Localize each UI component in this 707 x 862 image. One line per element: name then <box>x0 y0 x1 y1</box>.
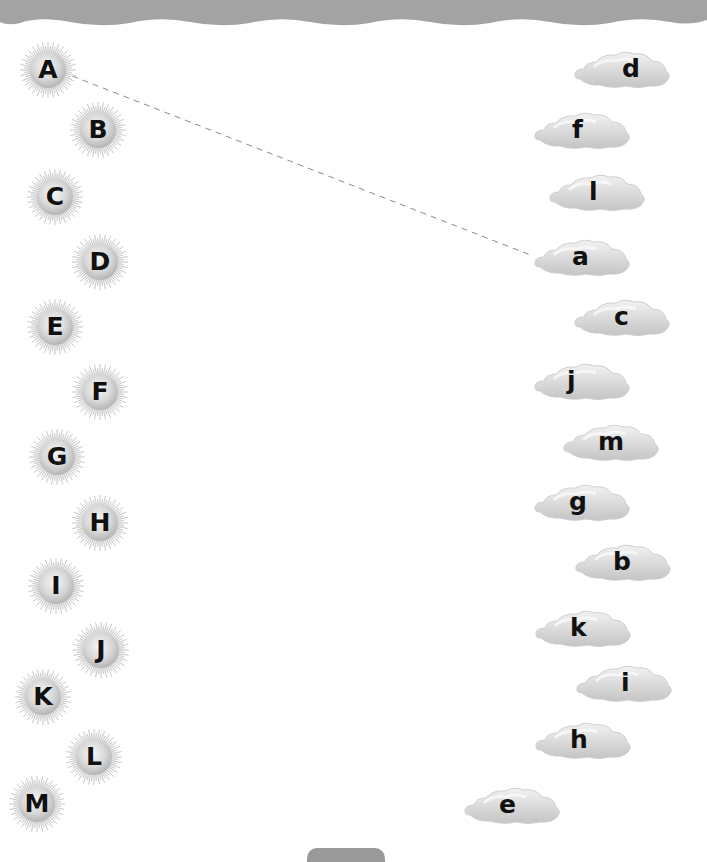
lowercase-letter: k <box>570 608 587 650</box>
uppercase-letter: L <box>66 729 122 785</box>
lowercase-m-cloud[interactable]: m <box>561 422 661 464</box>
uppercase-d-sun[interactable]: D <box>72 234 128 290</box>
lowercase-letter: f <box>572 110 583 152</box>
lowercase-c-cloud[interactable]: c <box>572 297 672 339</box>
uppercase-i-sun[interactable]: I <box>28 558 84 614</box>
uppercase-letter: G <box>29 429 85 485</box>
lowercase-h-cloud[interactable]: h <box>533 720 633 762</box>
uppercase-c-sun[interactable]: C <box>27 169 83 225</box>
uppercase-letter: A <box>20 42 76 98</box>
lowercase-letter: l <box>589 172 598 214</box>
lowercase-e-cloud[interactable]: e <box>462 785 562 827</box>
page-tab <box>307 848 385 862</box>
uppercase-letter: C <box>27 169 83 225</box>
uppercase-letter: F <box>72 364 128 420</box>
lowercase-letter: j <box>567 361 576 403</box>
cloud-icon <box>532 361 632 403</box>
uppercase-k-sun[interactable]: K <box>15 669 71 725</box>
uppercase-f-sun[interactable]: F <box>72 364 128 420</box>
lowercase-letter: e <box>499 785 516 827</box>
uppercase-letter: E <box>27 299 83 355</box>
uppercase-b-sun[interactable]: B <box>70 102 126 158</box>
lowercase-letter: c <box>614 297 629 339</box>
uppercase-letter: H <box>72 495 128 551</box>
uppercase-l-sun[interactable]: L <box>66 729 122 785</box>
lowercase-a-cloud[interactable]: a <box>532 237 632 279</box>
lowercase-letter: i <box>621 663 630 705</box>
lowercase-b-cloud[interactable]: b <box>573 542 673 584</box>
uppercase-letter: B <box>70 102 126 158</box>
uppercase-letter: J <box>73 622 129 678</box>
lowercase-letter: m <box>598 422 624 464</box>
lowercase-letter: g <box>569 482 587 524</box>
lowercase-letter: d <box>622 49 640 91</box>
uppercase-j-sun[interactable]: J <box>73 622 129 678</box>
uppercase-e-sun[interactable]: E <box>27 299 83 355</box>
uppercase-g-sun[interactable]: G <box>29 429 85 485</box>
uppercase-a-sun[interactable]: A <box>20 42 76 98</box>
lowercase-f-cloud[interactable]: f <box>532 110 632 152</box>
lowercase-d-cloud[interactable]: d <box>572 49 672 91</box>
lowercase-letter: a <box>572 237 589 279</box>
lowercase-i-cloud[interactable]: i <box>574 663 674 705</box>
lowercase-letter: b <box>613 542 631 584</box>
uppercase-letter: M <box>9 776 65 832</box>
uppercase-h-sun[interactable]: H <box>72 495 128 551</box>
uppercase-m-sun[interactable]: M <box>9 776 65 832</box>
uppercase-letter: K <box>15 669 71 725</box>
lowercase-g-cloud[interactable]: g <box>532 482 632 524</box>
header-band <box>0 0 707 30</box>
uppercase-letter: D <box>72 234 128 290</box>
lowercase-l-cloud[interactable]: l <box>547 172 647 214</box>
lowercase-j-cloud[interactable]: j <box>532 361 632 403</box>
lowercase-k-cloud[interactable]: k <box>533 608 633 650</box>
uppercase-letter: I <box>28 558 84 614</box>
match-line-a <box>62 72 533 256</box>
lowercase-letter: h <box>570 720 588 762</box>
